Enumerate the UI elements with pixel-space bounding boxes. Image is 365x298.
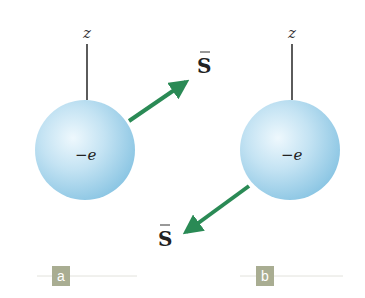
panel-label-b: b — [261, 268, 269, 284]
charge-label-a: −e — [75, 146, 97, 164]
panel-a: z −e S a — [35, 24, 211, 286]
z-axis-label-a: z — [82, 24, 91, 42]
z-axis-label-b: z — [287, 24, 296, 42]
spin-label-a: S — [197, 54, 211, 78]
charge-label-b: −e — [281, 146, 303, 164]
panel-label-a: a — [57, 268, 65, 284]
spin-label-b: S — [158, 227, 172, 251]
diagram-canvas: z −e S a z −e S b — [0, 0, 365, 298]
panel-b: z −e S b — [158, 24, 343, 286]
spin-arrow-b — [186, 186, 249, 232]
spin-arrow-a — [129, 82, 186, 121]
